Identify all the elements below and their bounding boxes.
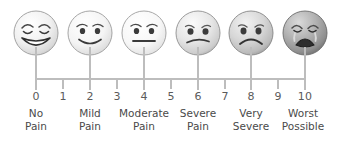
face-stem-2: [89, 47, 91, 79]
axis-tick-10[interactable]: [304, 80, 306, 90]
axis-tick-5[interactable]: [170, 80, 172, 89]
axis-tick-7[interactable]: [224, 80, 226, 89]
axis-tick-1[interactable]: [62, 80, 64, 89]
axis-end-cap-left: [35, 69, 37, 80]
pain-rating-scale: 0 1 2 3 4 5 6 7 8 9 10 No Pain Mild Pain…: [0, 0, 337, 143]
axis-end-cap-right: [304, 69, 306, 80]
face-stem-8: [250, 47, 252, 79]
scale-label-line2: Possible: [270, 120, 336, 133]
face-stem-4: [143, 47, 145, 79]
scale-label-line1: Worst: [270, 107, 336, 120]
axis-tick-4[interactable]: [143, 80, 145, 90]
scale-label-worst-possible: Worst Possible: [270, 107, 336, 133]
axis-tick-8[interactable]: [250, 80, 252, 90]
axis-tick-0[interactable]: [35, 80, 37, 90]
face-stem-6: [197, 47, 199, 79]
axis-tick-2[interactable]: [89, 80, 91, 90]
axis-tick-6[interactable]: [197, 80, 199, 90]
axis-tick-3[interactable]: [116, 80, 118, 89]
axis-tick-9[interactable]: [277, 80, 279, 89]
scale-number-10[interactable]: 10: [285, 90, 325, 103]
